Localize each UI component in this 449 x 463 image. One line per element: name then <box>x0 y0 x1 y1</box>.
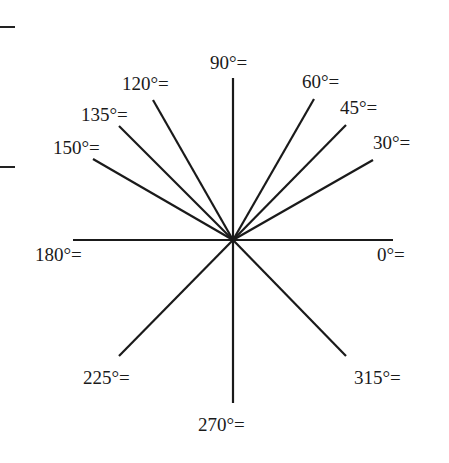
ray-225-deg <box>119 240 233 356</box>
label-270-deg: 270°= <box>198 415 245 434</box>
label-90-deg: 90°= <box>210 53 247 72</box>
label-0-deg: 0°= <box>377 245 405 264</box>
label-30-deg: 30°= <box>373 133 410 152</box>
label-150-deg: 150°= <box>53 138 100 157</box>
label-60-deg: 60°= <box>302 72 339 91</box>
label-45-deg: 45°= <box>340 98 377 117</box>
label-225-deg: 225°= <box>83 368 130 387</box>
label-180-deg: 180°= <box>35 245 82 264</box>
ray-30-deg <box>233 160 373 240</box>
ray-120-deg <box>153 100 233 240</box>
ray-315-deg <box>233 240 346 356</box>
label-135-deg: 135°= <box>81 105 128 124</box>
label-315-deg: 315°= <box>354 368 401 387</box>
label-120-deg: 120°= <box>122 74 169 93</box>
